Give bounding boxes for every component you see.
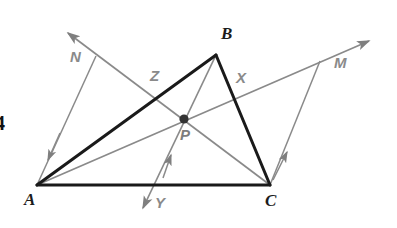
geometry-canvas xyxy=(0,0,397,228)
segment-c-m xyxy=(270,61,320,185)
vertex-label-a: A xyxy=(24,191,35,208)
geometry-diagram: A B C P N Z X M Y 4 xyxy=(0,0,397,228)
ray-label-y: Y xyxy=(155,195,165,210)
segment-n-a xyxy=(37,56,96,185)
ray-label-z: Z xyxy=(150,68,159,83)
ray-label-m: M xyxy=(334,55,347,70)
triangle-side-ab xyxy=(37,55,216,185)
segment-n-a-arrow xyxy=(48,133,60,160)
vertex-label-c: C xyxy=(265,192,276,209)
page-margin-digit: 4 xyxy=(0,113,5,133)
ray-label-n: N xyxy=(70,49,81,64)
ray-label-x: X xyxy=(236,70,246,85)
vertex-label-b: B xyxy=(221,25,232,42)
segment-c-m-arrow xyxy=(273,152,287,180)
point-p-marker xyxy=(179,114,188,123)
point-label-p: P xyxy=(180,127,190,142)
